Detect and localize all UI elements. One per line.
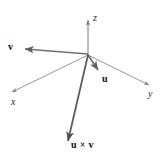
- vector-line-v: [25, 49, 88, 54]
- vector-line-u-cross-v: [68, 55, 88, 141]
- axis-line-x: [12, 55, 88, 92]
- axis-label-y: y: [148, 89, 152, 99]
- axis-label-z: z: [93, 13, 97, 23]
- axis-label-x: x: [11, 97, 15, 107]
- vector-label-u-cross-v: u × v: [71, 140, 94, 150]
- vector-label-u: u: [102, 74, 108, 84]
- vector-label-v: v: [8, 42, 13, 52]
- vector-diagram-figure: z x y v u u × v: [0, 0, 164, 159]
- vector-diagram-canvas: [0, 0, 164, 159]
